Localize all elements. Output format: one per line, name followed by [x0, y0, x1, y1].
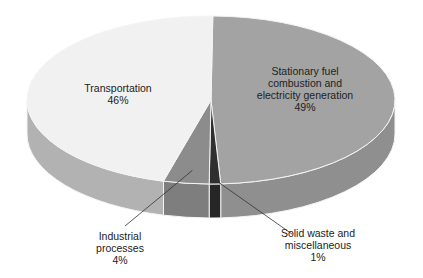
slice-label-industrial-processes: Industrialprocesses4%: [96, 230, 144, 266]
pie-chart: Stationary fuelcombustion andelectricity…: [0, 0, 423, 278]
slice-side-industrial-processes: [163, 181, 209, 218]
slice-label-solid-waste-and-miscellaneous: Solid waste andmiscellaneous1%: [281, 227, 355, 263]
slice-side-solid-waste-and-miscellaneous: [209, 184, 221, 218]
